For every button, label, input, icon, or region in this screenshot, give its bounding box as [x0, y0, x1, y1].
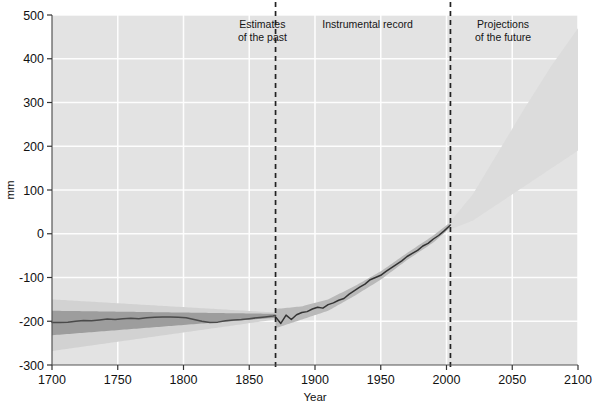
x-tick-label: 1900 — [301, 373, 329, 387]
y-tick-label: -200 — [19, 315, 44, 329]
x-tick-label: 2100 — [564, 373, 592, 387]
x-tick-label: 1950 — [367, 373, 395, 387]
annotation-estimates-of-the-past: of the past — [238, 31, 287, 43]
y-tick-label: 400 — [23, 52, 44, 66]
x-tick-label: 1850 — [235, 373, 263, 387]
annotation-instrumental-record: Instrumental record — [322, 18, 413, 30]
y-tick-label: 0 — [37, 227, 44, 241]
y-tick-label: -100 — [19, 271, 44, 285]
annotation-projections-of-the-future: Projections — [477, 18, 529, 30]
x-tick-label: 2050 — [498, 373, 526, 387]
x-axis-title: Year — [303, 391, 326, 403]
x-tick-label: 1800 — [170, 373, 198, 387]
sea-level-chart: -300-200-1000100200300400500170017501800… — [0, 0, 601, 405]
annotation-projections-of-the-future: of the future — [475, 31, 531, 43]
y-axis-title: mm — [4, 180, 16, 199]
y-tick-label: 100 — [23, 184, 44, 198]
x-tick-label: 2000 — [433, 373, 461, 387]
y-tick-label: -300 — [19, 359, 44, 373]
y-tick-label: 300 — [23, 96, 44, 110]
x-tick-label: 1750 — [104, 373, 132, 387]
x-tick-label: 1700 — [38, 373, 66, 387]
annotation-estimates-of-the-past: Estimates — [239, 18, 285, 30]
y-tick-label: 200 — [23, 140, 44, 154]
y-tick-label: 500 — [23, 9, 44, 23]
